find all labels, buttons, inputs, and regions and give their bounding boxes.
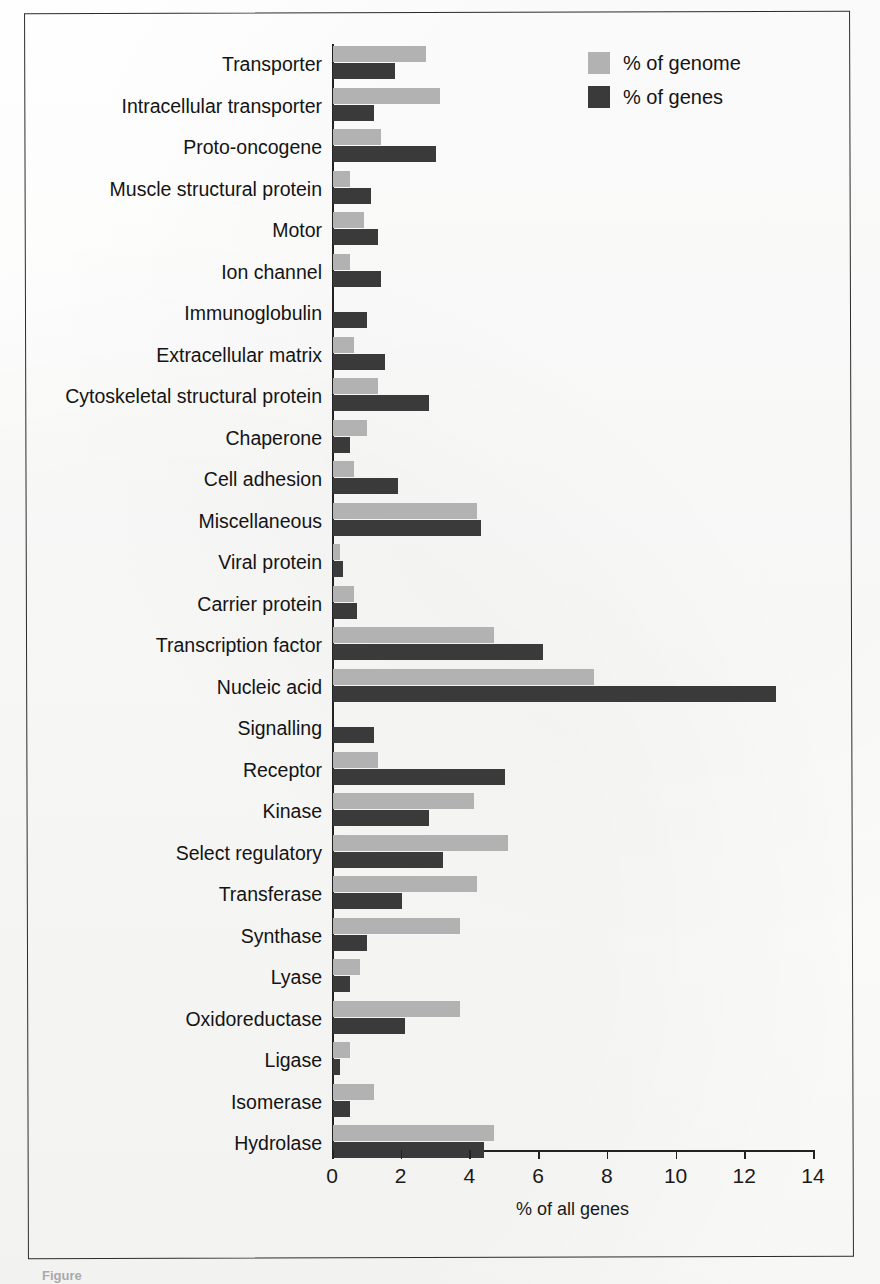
bar-genes <box>333 437 350 453</box>
x-tick-label-14: 14 <box>801 1164 824 1188</box>
x-tick-label-10: 10 <box>664 1164 687 1188</box>
x-tick-0 <box>332 1150 334 1159</box>
category-label: Chaperone <box>226 424 323 452</box>
bar-genes <box>333 271 381 287</box>
bar-row: Synthase <box>332 916 813 958</box>
bar-genes <box>333 686 776 702</box>
figure-caption-label: Figure <box>42 1268 82 1283</box>
bar-genes <box>333 520 481 536</box>
bar-genes <box>333 810 429 826</box>
category-label: Proto-oncogene <box>183 133 322 161</box>
bar-genome <box>333 337 354 353</box>
category-label: Transcription factor <box>156 631 322 659</box>
bar-genes <box>333 63 395 79</box>
bar-row: Hydrolase <box>332 1123 813 1165</box>
x-tick-label-0: 0 <box>326 1164 338 1188</box>
bar-genes <box>333 727 374 743</box>
bar-row: Muscle structural protein <box>332 169 813 211</box>
bar-genes <box>333 1101 350 1117</box>
bar-row: Motor <box>332 210 813 252</box>
bar-row: Transcription factor <box>332 625 813 667</box>
bar-genome <box>333 254 350 270</box>
bar-genome <box>333 1042 350 1058</box>
category-label: Extracellular matrix <box>156 341 322 369</box>
bar-row: Immunoglobulin <box>332 293 813 335</box>
bar-row: Isomerase <box>332 1082 813 1124</box>
bar-row: Chaperone <box>332 418 813 460</box>
bar-row: Proto-oncogene <box>332 127 813 169</box>
bar-genome <box>333 918 460 934</box>
bar-genome <box>333 1084 374 1100</box>
category-label: Miscellaneous <box>198 507 322 535</box>
bar-chart: TransporterIntracellular transporterProt… <box>0 0 880 1284</box>
category-label: Transporter <box>222 50 322 78</box>
x-tick-label-2: 2 <box>395 1164 407 1188</box>
bar-genome <box>333 586 354 602</box>
bar-genes <box>333 105 374 121</box>
category-label: Isomerase <box>231 1088 322 1116</box>
bar-genome <box>333 793 474 809</box>
bar-genome <box>333 212 364 228</box>
x-tick-6 <box>538 1150 540 1159</box>
bar-genes <box>333 395 429 411</box>
bar-genome <box>333 835 508 851</box>
x-tick-label-4: 4 <box>464 1164 476 1188</box>
category-label: Transferase <box>219 880 322 908</box>
bar-row: Transferase <box>332 874 813 916</box>
bar-genes <box>333 146 436 162</box>
bar-genome <box>333 420 367 436</box>
bar-row: Receptor <box>332 750 813 792</box>
legend-label-genome: % of genome <box>623 52 741 75</box>
bar-row: Lyase <box>332 957 813 999</box>
category-label: Select regulatory <box>176 839 322 867</box>
x-tick-label-6: 6 <box>532 1164 544 1188</box>
bar-row: Ligase <box>332 1040 813 1082</box>
category-label: Ligase <box>265 1046 322 1074</box>
bar-genes <box>333 561 343 577</box>
category-label: Kinase <box>262 797 322 825</box>
category-label: Lyase <box>271 963 322 991</box>
bar-genes <box>333 1142 484 1158</box>
bar-genes <box>333 935 367 951</box>
category-label: Signalling <box>237 714 322 742</box>
x-axis-title: % of all genes <box>332 1199 813 1220</box>
category-label: Oxidoreductase <box>185 1005 322 1033</box>
bar-genome <box>333 171 350 187</box>
x-tick-14 <box>813 1150 815 1159</box>
bar-genes <box>333 229 378 245</box>
legend-swatch-genes-icon <box>588 86 610 108</box>
bar-genome <box>333 461 354 477</box>
bar-genes <box>333 1059 340 1075</box>
bar-genes <box>333 188 371 204</box>
bar-genes <box>333 354 385 370</box>
bar-genome <box>333 627 494 643</box>
bar-row: Nucleic acid <box>332 667 813 709</box>
legend-label-genes: % of genes <box>623 86 723 109</box>
category-label: Cytoskeletal structural protein <box>65 382 322 410</box>
bar-row: Kinase <box>332 791 813 833</box>
bar-row: Carrier protein <box>332 584 813 626</box>
chart-legend: % of genome % of genes <box>588 46 741 114</box>
bar-genes <box>333 769 505 785</box>
figure-caption-fragment: Figure <box>42 1268 682 1284</box>
bar-row: Miscellaneous <box>332 501 813 543</box>
bar-row: Viral protein <box>332 542 813 584</box>
bar-genes <box>333 312 367 328</box>
bar-genes <box>333 852 443 868</box>
bar-genome <box>333 876 477 892</box>
category-label: Synthase <box>241 922 322 950</box>
bar-row: Signalling <box>332 708 813 750</box>
bar-genes <box>333 1018 405 1034</box>
bar-genes <box>333 644 543 660</box>
bar-row: Cell adhesion <box>332 459 813 501</box>
x-tick-10 <box>676 1150 678 1159</box>
category-label: Hydrolase <box>234 1129 322 1157</box>
bar-genome <box>333 1125 494 1141</box>
bar-genes <box>333 603 357 619</box>
bar-genes <box>333 893 402 909</box>
bar-row: Oxidoreductase <box>332 999 813 1041</box>
category-label: Cell adhesion <box>204 465 322 493</box>
category-label: Carrier protein <box>197 590 322 618</box>
x-tick-8 <box>607 1150 609 1159</box>
plot-area: TransporterIntracellular transporterProt… <box>332 44 813 1150</box>
